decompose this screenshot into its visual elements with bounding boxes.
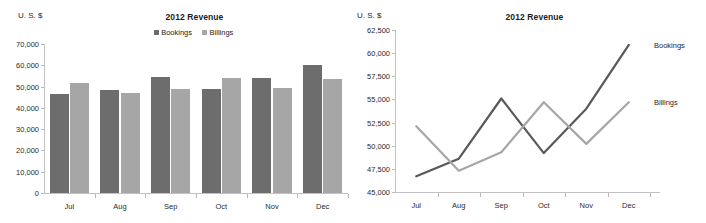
bar-chart-x-tickmark	[348, 194, 349, 198]
bar-billings-aug	[121, 93, 140, 193]
line-chart-y-tick-label: 62,500	[353, 26, 390, 35]
line-chart-y-axis	[395, 30, 396, 192]
line-chart-y-tick-label: 57,500	[353, 72, 390, 81]
bar-chart-y-tick-label: 70,000	[2, 40, 39, 49]
bar-chart-y-unit-label: U. S. $	[18, 11, 42, 20]
line-chart-x-tickmark	[650, 193, 651, 197]
bar-chart-y-tick-label: 30,000	[2, 125, 39, 134]
line-chart-x-tickmark	[565, 193, 566, 197]
line-chart-title: 2012 Revenue	[353, 12, 706, 22]
bar-chart-y-tickmark	[41, 87, 44, 88]
bar-bookings-sep	[151, 77, 170, 193]
bar-chart-y-axis	[44, 44, 45, 193]
bar-chart-y-tick-label: 60,000	[2, 61, 39, 70]
line-chart-y-tickmark	[392, 123, 395, 124]
bar-billings-jul	[70, 83, 89, 193]
line-chart-y-tick-label: 45,000	[353, 188, 390, 197]
bar-chart-title: 2012 Revenue	[0, 12, 353, 22]
bar-chart-x-tickmark	[196, 194, 197, 198]
line-chart-series-svg	[353, 0, 706, 223]
line-chart-x-tickmark	[480, 193, 481, 197]
line-label-billings: Billings	[654, 98, 678, 107]
line-chart-x-axis	[395, 192, 660, 193]
bar-bookings-aug	[100, 90, 119, 193]
bar-chart-y-tick-label: 0	[2, 189, 39, 198]
line-chart-y-tick-label: 50,000	[353, 141, 390, 150]
line-chart-y-tick-label: 55,000	[353, 95, 390, 104]
bar-bookings-dec	[303, 65, 322, 193]
line-chart-y-tickmark	[392, 192, 395, 193]
line-chart-x-tick-label-sep: Sep	[477, 201, 525, 210]
bar-chart-y-tickmark	[41, 108, 44, 109]
bar-chart-x-tick-label-jul: Jul	[45, 202, 93, 211]
line-chart-y-tickmark	[392, 99, 395, 100]
bar-billings-dec	[323, 79, 342, 193]
legend-swatch-billings	[202, 30, 207, 35]
bar-chart-x-tickmark	[247, 194, 248, 198]
legend-label-bookings: Bookings	[161, 28, 192, 37]
legend-label-billings: Billings	[210, 28, 234, 37]
bar-bookings-nov	[252, 78, 271, 193]
line-chart-y-tickmark	[392, 30, 395, 31]
bar-billings-sep	[171, 89, 190, 193]
line-series-billings	[416, 102, 629, 171]
bar-chart-y-tick-label: 20,000	[2, 146, 39, 155]
line-chart-y-tickmark	[392, 146, 395, 147]
bar-chart-y-tickmark	[41, 129, 44, 130]
bar-chart-x-tickmark	[145, 194, 146, 198]
bar-chart-x-tick-label-aug: Aug	[96, 202, 144, 211]
line-chart-x-tick-label-dec: Dec	[605, 201, 653, 210]
line-label-bookings: Bookings	[654, 41, 685, 50]
line-chart-y-tick-label: 47,500	[353, 164, 390, 173]
legend-item-billings: Billings	[202, 28, 233, 37]
bar-chart-y-tickmark	[41, 193, 44, 194]
line-chart-x-tickmark	[438, 193, 439, 197]
line-chart-y-tick-label: 52,500	[353, 118, 390, 127]
bar-chart-panel: 2012 Revenue U. S. $ Bookings Billings 0…	[0, 0, 353, 223]
bar-chart-y-tick-label: 40,000	[2, 103, 39, 112]
bar-chart-y-tickmark	[41, 150, 44, 151]
bar-chart-x-tick-label-sep: Sep	[147, 202, 195, 211]
line-series-bookings	[416, 45, 629, 177]
legend-item-bookings: Bookings	[154, 28, 192, 37]
line-chart-x-tick-label-jul: Jul	[392, 201, 440, 210]
bar-chart-y-tick-label: 50,000	[2, 82, 39, 91]
line-chart-y-tickmark	[392, 76, 395, 77]
line-chart-panel: 2012 Revenue U. S. $ 45,00047,50050,0005…	[353, 0, 706, 223]
line-chart-x-tick-label-oct: Oct	[520, 201, 568, 210]
bar-chart-y-tickmark	[41, 65, 44, 66]
bar-chart-x-tick-label-oct: Oct	[197, 202, 245, 211]
bar-chart-legend: Bookings Billings	[0, 28, 353, 37]
line-chart-y-tickmark	[392, 53, 395, 54]
bar-chart-x-tickmark	[95, 194, 96, 198]
line-chart-x-tickmark	[523, 193, 524, 197]
bar-chart-x-tick-label-dec: Dec	[299, 202, 347, 211]
bar-chart-x-tickmark	[297, 194, 298, 198]
line-chart-y-unit-label: U. S. $	[357, 11, 381, 20]
bar-billings-oct	[222, 78, 241, 193]
bar-chart-y-tick-label: 10,000	[2, 167, 39, 176]
line-chart-y-tickmark	[392, 169, 395, 170]
line-chart-x-tick-label-aug: Aug	[435, 201, 483, 210]
bar-billings-nov	[273, 88, 292, 193]
bar-chart-y-tickmark	[41, 44, 44, 45]
line-chart-x-tick-label-nov: Nov	[562, 201, 610, 210]
bar-chart-x-tick-label-nov: Nov	[248, 202, 296, 211]
line-chart-y-tick-label: 60,000	[353, 49, 390, 58]
legend-swatch-bookings	[154, 30, 159, 35]
bar-chart-y-tickmark	[41, 172, 44, 173]
line-chart-x-tickmark	[608, 193, 609, 197]
bar-bookings-oct	[202, 89, 221, 193]
bar-bookings-jul	[50, 94, 69, 193]
dual-chart-figure: 2012 Revenue U. S. $ Bookings Billings 0…	[0, 0, 706, 223]
